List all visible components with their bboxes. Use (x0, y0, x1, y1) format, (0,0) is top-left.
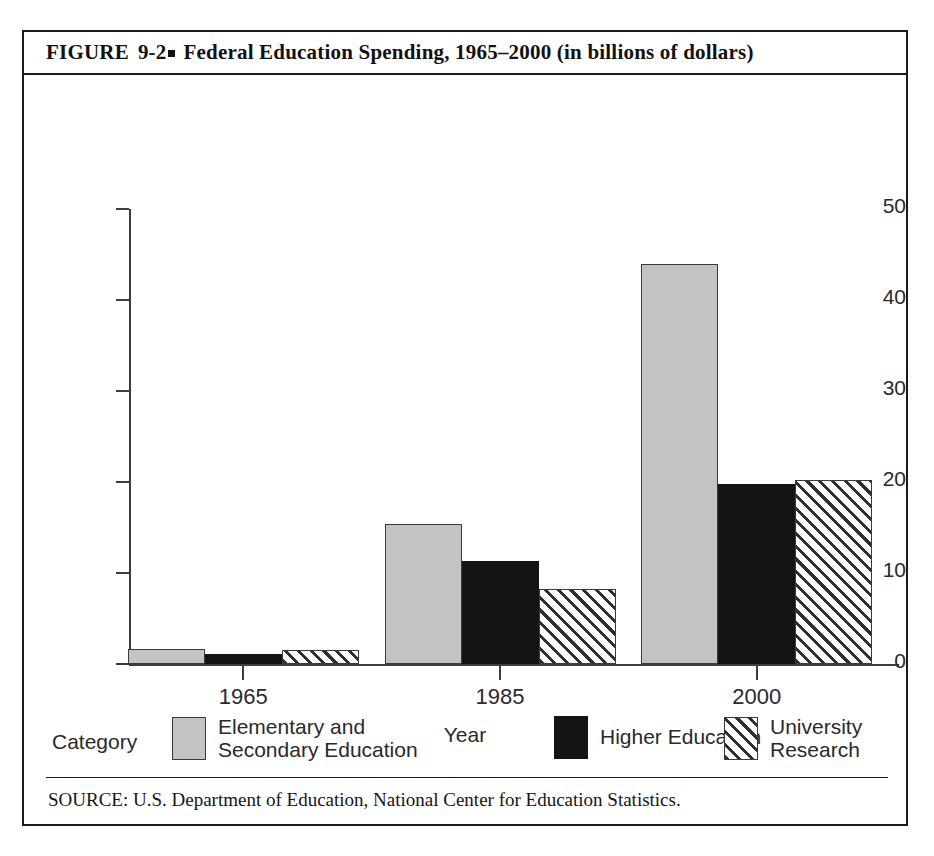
x-axis-line (129, 664, 899, 666)
x-tick-mark (756, 666, 758, 680)
bar (718, 484, 795, 664)
y-tick-label: 40 (856, 285, 906, 309)
x-tick-label: 1985 (430, 684, 570, 710)
figure-number: 9-2 (138, 40, 167, 64)
y-tick-mark (116, 481, 129, 483)
bar (795, 480, 872, 664)
bar (282, 650, 359, 664)
legend-item[interactable]: University Research (724, 716, 906, 761)
figure-label: FIGURE (46, 40, 129, 64)
figure-page: FIGURE9-2Federal Education Spending, 196… (0, 0, 934, 856)
chart-legend: Category Elementary and Secondary Educat… (24, 708, 906, 774)
legend-label: Elementary and Secondary Education (218, 716, 418, 761)
legend-swatch-icon (172, 717, 206, 760)
source-divider (46, 777, 888, 778)
bar (462, 561, 539, 664)
bar (641, 264, 718, 664)
legend-item[interactable]: Elementary and Secondary Education (172, 716, 418, 761)
y-tick-mark (116, 572, 129, 574)
x-tick-label: 2000 (687, 684, 827, 710)
bar (205, 654, 282, 664)
y-tick-label: 30 (856, 376, 906, 400)
legend-swatch-icon (724, 717, 758, 760)
bar (539, 589, 616, 664)
legend-swatch-icon (554, 716, 588, 759)
x-tick-label: 1965 (173, 684, 313, 710)
bar (385, 524, 462, 664)
bar (128, 649, 205, 664)
y-tick-mark (116, 390, 129, 392)
figure-title-text: Federal Education Spending, 1965–2000 (i… (183, 40, 753, 64)
legend-title: Category (52, 730, 137, 754)
x-tick-mark (242, 666, 244, 680)
figure-frame: FIGURE9-2Federal Education Spending, 196… (22, 30, 908, 826)
y-tick-label: 50 (856, 194, 906, 218)
y-axis-line (129, 209, 131, 666)
legend-label: University Research (770, 716, 906, 761)
y-tick-mark (116, 299, 129, 301)
y-tick-mark (116, 208, 129, 210)
x-tick-mark (499, 666, 501, 680)
page-title: FIGURE9-2Federal Education Spending, 196… (46, 40, 754, 65)
source-note: SOURCE: U.S. Department of Education, Na… (48, 789, 681, 811)
bullet-square-icon (168, 50, 175, 57)
figure-title-bar: FIGURE9-2Federal Education Spending, 196… (24, 32, 906, 75)
